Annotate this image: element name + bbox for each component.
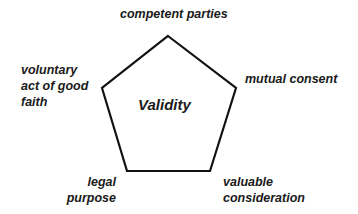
vertex-label-bottom-left-line1: legal — [64, 174, 116, 190]
vertex-label-bottom-left-line2: purpose — [64, 190, 116, 206]
vertex-label-right: mutual consent — [245, 71, 337, 87]
vertex-label-left: voluntary act of good faith — [21, 62, 88, 110]
vertex-label-bottom-left: legal purpose — [64, 174, 116, 206]
vertex-label-left-line2: act of good — [21, 78, 88, 94]
vertex-label-left-line1: voluntary — [21, 62, 88, 78]
vertex-label-bottom-right: valuable consideration — [223, 174, 305, 206]
center-label: Validity — [138, 97, 191, 113]
vertex-label-left-line3: faith — [21, 94, 88, 110]
vertex-label-bottom-right-line1: valuable — [223, 174, 305, 190]
vertex-label-bottom-right-line2: consideration — [223, 190, 305, 206]
vertex-label-top: competent parties — [120, 6, 228, 22]
